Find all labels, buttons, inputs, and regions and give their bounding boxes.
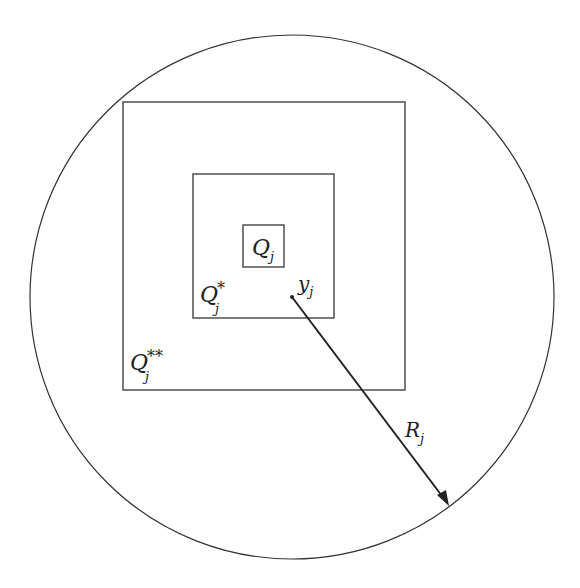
label-r: Rj bbox=[404, 418, 424, 446]
radius-arrow-line bbox=[292, 297, 445, 500]
label-q-star-sup: * bbox=[217, 279, 225, 298]
label-q: Qj bbox=[252, 235, 274, 264]
center-point bbox=[290, 295, 294, 299]
diagram-canvas: Qj Q * j Q ** j yj Rj bbox=[0, 0, 580, 588]
label-q-double-star-sup: ** bbox=[147, 347, 163, 366]
label-y: yj bbox=[297, 272, 313, 299]
